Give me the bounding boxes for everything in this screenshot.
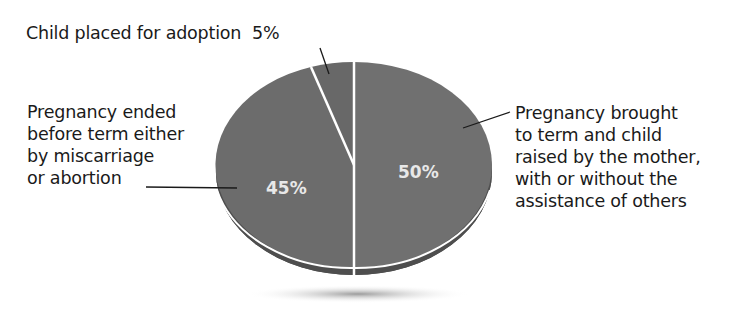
pct-adoption: 5%: [252, 23, 279, 43]
label-ended-before-term: Pregnancy ended before term either by mi…: [27, 101, 184, 189]
pct-ended: 45%: [266, 178, 307, 198]
pie-shadow: [246, 285, 470, 303]
label-raised-by-mother: Pregnancy brought to term and child rais…: [515, 102, 701, 212]
label-adoption: Child placed for adoption 5%: [26, 22, 279, 44]
pct-term: 50%: [398, 162, 439, 182]
